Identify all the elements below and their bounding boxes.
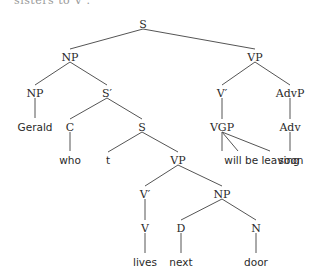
tree-node-label: NP bbox=[61, 51, 79, 64]
tree-edge bbox=[145, 165, 178, 186]
tree-node-label: S bbox=[138, 121, 146, 134]
tree-node-label: D bbox=[177, 222, 186, 235]
tree-edge bbox=[107, 98, 142, 119]
tree-edge bbox=[70, 62, 107, 85]
tree-leaf-word: Gerald bbox=[18, 121, 53, 133]
tree-node-label: VP bbox=[246, 51, 263, 64]
tree-node-label: C bbox=[66, 121, 74, 134]
tree-node-label: S bbox=[139, 18, 147, 31]
tree-leaf-word: soon bbox=[279, 154, 304, 166]
tree-leaf-word: who bbox=[59, 154, 81, 166]
tree-node-label: AdvP bbox=[275, 87, 305, 100]
tree-edge bbox=[222, 62, 255, 85]
tree-edge bbox=[222, 199, 256, 220]
tree-node-label: NP bbox=[26, 87, 44, 100]
tree-edge bbox=[35, 62, 70, 85]
tree-leaf-word: next bbox=[169, 256, 192, 268]
tree-node-label: Adv bbox=[278, 121, 301, 134]
tree-edge bbox=[222, 132, 270, 151]
tree-node-label: V bbox=[140, 222, 150, 235]
tree-leaf-word: lives bbox=[133, 256, 157, 268]
tree-edge bbox=[142, 132, 178, 152]
tree-edge bbox=[255, 62, 290, 85]
tree-node-label: VGP bbox=[209, 121, 235, 134]
tree-node-label: V′ bbox=[139, 188, 151, 201]
tree-node-label: NP bbox=[213, 188, 231, 201]
tree-node-label: VP bbox=[169, 154, 186, 167]
syntax-tree: SNPVPNPS′V′AdvPGeraldCSVGPAdvwhotVPwill … bbox=[0, 0, 323, 280]
tree-edge bbox=[181, 199, 222, 220]
tree-leaf-word: t bbox=[106, 154, 110, 166]
tree-node-label: S′ bbox=[102, 87, 113, 100]
tree-node-label: N bbox=[251, 222, 261, 235]
tree-edge bbox=[143, 29, 255, 49]
tree-node-label: V′ bbox=[216, 87, 228, 100]
tree-leaf-word: door bbox=[244, 256, 269, 268]
tree-edge bbox=[70, 98, 107, 119]
tree-edge bbox=[178, 165, 222, 186]
tree-edge bbox=[108, 132, 142, 152]
tree-edge bbox=[70, 29, 143, 49]
